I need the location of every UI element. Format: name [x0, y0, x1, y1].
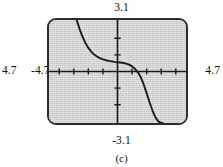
y-max-label: 3.1 — [0, 2, 223, 14]
x-max-label: 4.7 — [205, 65, 220, 77]
figure-caption: (c) — [0, 152, 223, 164]
figure-caption-text: (c) — [115, 152, 127, 164]
calculator-screen — [47, 18, 188, 125]
x-far-left-label: 4.7 — [2, 65, 17, 77]
graph-plot — [49, 20, 186, 123]
y-max-label-text: 3.1 — [114, 1, 129, 13]
y-min-label: -3.1 — [0, 135, 223, 147]
y-min-label-text: -3.1 — [112, 134, 131, 146]
figure-container: 3.1 4.7 -4.7 4.7 -3.1 (c) — [0, 0, 223, 167]
